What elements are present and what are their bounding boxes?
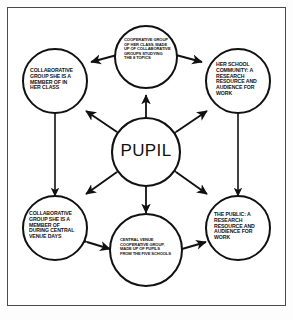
- connector-central-venue-public: [182, 242, 206, 249]
- node-circle-the-public: [206, 196, 270, 260]
- connector-pupil-collaborative-venue: [86, 172, 117, 194]
- connector-collaborative-venue-central-venue: [87, 242, 110, 249]
- connector-cooperative-school-community: [176, 55, 202, 62]
- connector-pupil-collaborative-class: [86, 111, 117, 132]
- connector-pupil-the-public: [176, 172, 207, 194]
- node-circle-school-community: [206, 49, 270, 113]
- node-circle-collaborative-group-class: [23, 49, 87, 113]
- node-circle-pupil: [112, 118, 180, 186]
- diagram-canvas: [0, 0, 293, 320]
- connector-pupil-school-community: [176, 111, 207, 132]
- figure-root: COOPERATIVE GROUP OF HER CLASS, MADE UP …: [0, 0, 293, 320]
- node-circle-cooperative-group-class: [115, 26, 177, 88]
- node-circle-collaborative-group-venue: [23, 196, 87, 260]
- connector-cooperative-collaborative-class: [91, 55, 117, 62]
- node-circle-central-venue-group: [110, 214, 182, 286]
